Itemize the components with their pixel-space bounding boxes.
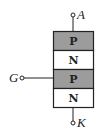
layer-n1-label: N <box>68 54 78 67</box>
layer-n2-label: N <box>68 92 78 105</box>
layer-p2-label: P <box>69 73 77 86</box>
cathode-label: K <box>76 115 87 130</box>
gate-terminal-icon <box>20 76 24 80</box>
anode-label: A <box>76 7 85 22</box>
semiconductor-stack: P N P N <box>54 32 94 108</box>
layer-p1-label: P <box>69 35 77 48</box>
thyristor-diagram: A P N P N G K <box>0 0 99 136</box>
cathode-terminal-icon <box>71 121 75 125</box>
anode-terminal-icon <box>71 13 75 17</box>
gate-label: G <box>9 70 19 85</box>
